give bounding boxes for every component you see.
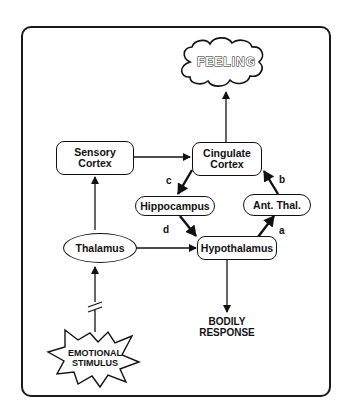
edge-hypothalamus-to-antthal [258,216,274,237]
edge-antthal-to-cingulate [264,171,278,194]
edge-label-d: d [163,224,169,235]
edge-label-a: a [279,225,285,236]
edge-cingulate-to-hippocampus [178,170,192,194]
bodily-response-label: BODILY RESPONSE [196,316,258,338]
edge-hippocampus-to-hypothalamus [180,216,196,236]
break-mark-1 [88,302,102,307]
sensory-cortex-node[interactable]: Sensory Cortex [56,141,134,175]
feeling-label: FEELING [197,55,256,69]
hippocampus-node[interactable]: Hippocampus [135,196,215,216]
thalamus-node[interactable]: Thalamus [63,233,137,263]
hypothalamus-node[interactable]: Hypothalamus [197,236,277,260]
edge-label-c: c [166,175,172,186]
edge-label-b: b [279,174,285,185]
ant-thal-node[interactable]: Ant. Thal. [243,194,311,216]
cingulate-cortex-node[interactable]: Cingulate Cortex [192,142,262,176]
emotional-stimulus-label: EMOTIONAL STIMULUS [63,348,127,368]
